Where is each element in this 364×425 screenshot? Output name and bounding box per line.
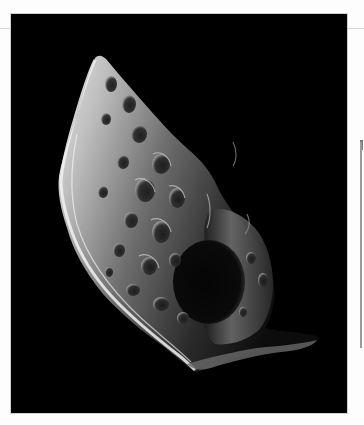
side-scroll-bar	[360, 142, 362, 348]
large-crater	[173, 240, 245, 324]
moon-photo: Cratered irregular moon on black space b…	[11, 14, 347, 413]
moon-body	[58, 56, 317, 372]
moon-illustration	[11, 14, 347, 413]
